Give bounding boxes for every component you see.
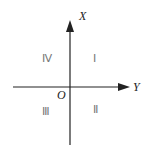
quadrant-label-2: Ⅱ: [93, 103, 98, 115]
quadrant-label-1: Ⅰ: [93, 52, 96, 64]
horizontal-axis-label: Y: [133, 80, 141, 94]
vertical-axis-label: X: [78, 9, 87, 23]
vertical-axis-arrowhead: [66, 20, 74, 32]
quadrant-label-3: Ⅲ: [42, 105, 50, 117]
origin-label: O: [57, 88, 66, 102]
horizontal-axis-arrowhead: [118, 83, 130, 91]
quadrant-diagram: X Y O Ⅰ Ⅱ Ⅲ Ⅳ: [0, 0, 148, 154]
quadrant-label-4: Ⅳ: [42, 52, 53, 64]
